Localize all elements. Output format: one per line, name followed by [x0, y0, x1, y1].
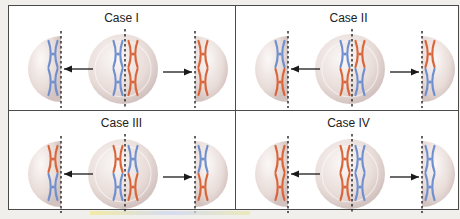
panel-case-4: Case IV [236, 111, 460, 214]
figure-frame: Case I Case II Case III Case IV [8, 5, 459, 210]
cell-division-illustration [9, 6, 234, 109]
cell-division-illustration [236, 111, 460, 214]
panel-case-3: Case III [9, 111, 234, 214]
cell-division-illustration [236, 6, 460, 109]
cell-division-illustration [9, 111, 234, 214]
decorative-strip [90, 211, 250, 215]
panel-case-2: Case II [236, 6, 460, 109]
panel-case-1: Case I [9, 6, 234, 109]
